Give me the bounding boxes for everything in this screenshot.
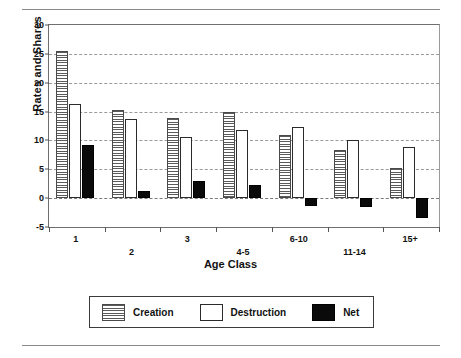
legend-item: Destruction (200, 304, 287, 321)
legend-item: Creation (102, 304, 174, 321)
bar-creation (223, 112, 235, 198)
legend-label-destruction: Destruction (231, 307, 287, 318)
x-tick-label: 3 (185, 234, 190, 244)
x-tick-mark (49, 227, 50, 232)
bar-net (193, 181, 205, 198)
x-tick-mark (439, 227, 440, 232)
bar-destruction (347, 140, 359, 198)
x-tick-label: 15+ (403, 234, 418, 244)
legend-item: Net (312, 304, 359, 321)
bar-creation (390, 168, 402, 199)
bar-creation (167, 118, 179, 198)
bar-destruction (69, 104, 81, 198)
legend-swatch-destruction-icon (200, 304, 223, 321)
bar-destruction (236, 130, 248, 198)
y-tick-label: 15 (34, 107, 44, 117)
x-tick-mark (105, 227, 106, 232)
legend-swatch-net-icon (312, 304, 335, 321)
y-tick-label: 25 (34, 49, 44, 59)
bar-net (360, 198, 372, 207)
bar-creation (279, 135, 291, 198)
y-tick-label: 20 (34, 78, 44, 88)
bar-net (416, 198, 428, 218)
y-tick-label: 0 (39, 193, 44, 203)
bar-group (272, 25, 328, 227)
y-tick-label: 5 (39, 164, 44, 174)
bar-net (82, 145, 94, 198)
bar-destruction (180, 137, 192, 198)
y-tick-label: 10 (34, 135, 44, 145)
bar-group (216, 25, 272, 227)
x-tick-mark (160, 227, 161, 232)
y-tick-label: 30 (34, 20, 44, 30)
legend-swatch-creation-icon (102, 304, 125, 321)
bar-group (328, 25, 384, 227)
x-tick-label: 11-14 (343, 247, 366, 257)
chart-legend: Creation Destruction Net (89, 296, 374, 328)
x-tick-label: 1 (73, 234, 78, 244)
x-tick-mark (383, 227, 384, 232)
top-divider-rule (22, 9, 440, 10)
chart-page: Rates and Shares -5051015202530 1234-56-… (0, 0, 461, 358)
bar-creation (112, 110, 124, 198)
bar-creation (334, 150, 346, 198)
bar-group (105, 25, 161, 227)
bar-destruction (292, 127, 304, 198)
x-tick-label: 6-10 (290, 234, 308, 244)
bar-net (305, 198, 317, 206)
x-axis-title: Age Class (0, 258, 461, 270)
y-tick-label: -5 (36, 222, 44, 232)
bar-group (383, 25, 439, 227)
bar-net (249, 185, 261, 198)
bar-creation (56, 51, 68, 198)
bar-group (49, 25, 105, 227)
bar-net (138, 191, 150, 198)
x-tick-label: 2 (129, 247, 134, 257)
bottom-divider-rule (22, 345, 440, 346)
x-tick-mark (216, 227, 217, 232)
plot-area: -5051015202530 (48, 24, 440, 228)
legend-label-creation: Creation (133, 307, 174, 318)
x-tick-mark (272, 227, 273, 232)
x-tick-mark (328, 227, 329, 232)
x-tick-label: 4-5 (236, 247, 249, 257)
bar-destruction (125, 119, 137, 198)
bar-destruction (403, 147, 415, 198)
bar-group (160, 25, 216, 227)
legend-label-net: Net (343, 307, 359, 318)
